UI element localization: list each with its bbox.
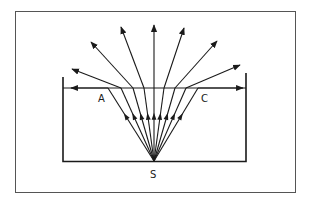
figure-frame <box>16 12 296 193</box>
label-a: A <box>98 93 105 104</box>
refracted-ray-6-arrowhead-icon <box>164 113 169 120</box>
critical-ray-right-underwater <box>154 88 198 161</box>
refracted-ray-6-emergent <box>175 41 217 88</box>
critical-ray-left-arrowhead-icon <box>124 113 130 120</box>
refracted-ray-3-arrowhead-icon <box>146 113 151 120</box>
refraction-diagram: A C S <box>0 0 311 203</box>
refracted-ray-2-arrowhead-icon <box>140 113 145 120</box>
refracted-ray-2-underwater <box>133 88 154 161</box>
refracted-ray-2-emergent <box>91 42 133 88</box>
label-s: S <box>150 169 156 180</box>
refracted-ray-6-underwater <box>154 88 175 161</box>
refracted-ray-1-emergent <box>72 69 121 88</box>
critical-ray-right-arrowhead-icon <box>177 113 183 120</box>
refracted-ray-7-emergent <box>186 65 240 88</box>
label-c: C <box>201 93 208 104</box>
refracted-ray-7-arrowhead-icon <box>170 113 175 120</box>
refracted-ray-5-arrowhead-icon <box>157 113 162 120</box>
refracted-ray-5-emergent <box>164 28 184 88</box>
refracted-ray-1-arrowhead-icon <box>132 113 137 120</box>
ray-group <box>71 25 243 161</box>
normal-ray-arrowhead-icon <box>152 113 157 120</box>
critical-ray-left-underwater <box>108 88 154 161</box>
